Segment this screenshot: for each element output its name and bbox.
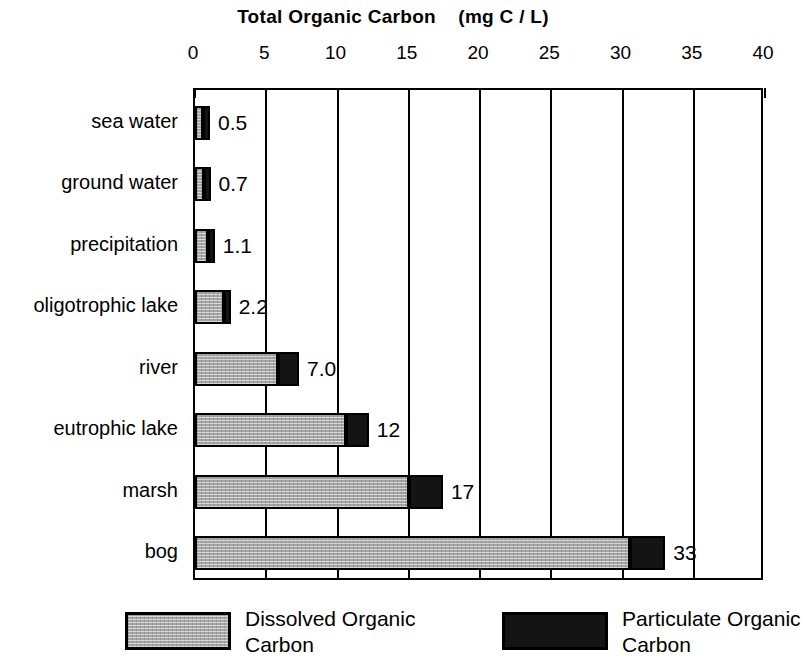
bar-value-label: 0.5 — [218, 111, 247, 135]
category-label-precipitation: precipitation — [70, 227, 178, 261]
category-label-bog: bog — [145, 534, 178, 568]
bar-segment-particulate[interactable] — [409, 475, 443, 509]
x-tick-label-30: 30 — [610, 42, 631, 64]
bar-value-label: 12 — [377, 418, 400, 442]
bar-segment-particulate[interactable] — [224, 290, 231, 324]
x-axis-tick-labels: 0510152025303540 — [193, 42, 763, 66]
legend-label-particulate: Particulate Organic Carbon — [622, 606, 805, 658]
category-label-marsh: marsh — [122, 473, 178, 507]
category-label-sea-water: sea water — [91, 104, 178, 138]
bar-segment-dissolved[interactable] — [195, 413, 346, 447]
bar-segment-particulate[interactable] — [630, 536, 666, 570]
x-tick-mark-15 — [408, 88, 410, 98]
bar-segment-dissolved[interactable] — [195, 290, 224, 324]
category-label-eutrophic-lake: eutrophic lake — [53, 411, 178, 445]
bar-row: 12 — [195, 413, 765, 447]
legend-label-dissolved: Dissolved Organic Carbon — [245, 606, 485, 658]
legend-swatch-dissolved — [125, 612, 231, 650]
bar-segment-particulate[interactable] — [203, 106, 210, 140]
x-tick-mark-0 — [194, 88, 196, 98]
chart-title: Total Organic Carbon (mg C / L) — [0, 6, 786, 28]
x-tick-label-10: 10 — [325, 42, 346, 64]
x-tick-label-35: 35 — [681, 42, 702, 64]
bar-row: 17 — [195, 475, 765, 509]
bar-value-label: 1.1 — [223, 234, 252, 258]
bar-segment-particulate[interactable] — [204, 167, 211, 201]
x-tick-mark-35 — [693, 88, 695, 98]
plot-area: 0.50.71.12.27.0121733 — [193, 88, 763, 580]
x-tick-label-5: 5 — [259, 42, 270, 64]
x-tick-mark-5 — [265, 88, 267, 98]
bar-value-label: 33 — [673, 541, 696, 565]
bar-row: 2.2 — [195, 290, 765, 324]
category-label-ground-water: ground water — [61, 165, 178, 199]
x-tick-mark-40 — [764, 88, 766, 98]
bar-segment-particulate[interactable] — [278, 352, 299, 386]
legend-swatch-particulate — [502, 612, 608, 650]
category-label-oligotrophic-lake: oligotrophic lake — [33, 288, 178, 322]
bar-value-label: 0.7 — [219, 172, 248, 196]
bar-row: 7.0 — [195, 352, 765, 386]
bar-value-label: 7.0 — [307, 357, 336, 381]
x-tick-mark-30 — [622, 88, 624, 98]
bar-value-label: 17 — [451, 480, 474, 504]
x-tick-label-15: 15 — [396, 42, 417, 64]
bar-segment-dissolved[interactable] — [195, 229, 208, 263]
bar-row: 0.5 — [195, 106, 765, 140]
x-tick-mark-25 — [550, 88, 552, 98]
bar-value-label: 2.2 — [239, 295, 268, 319]
bar-segment-dissolved[interactable] — [195, 475, 409, 509]
bar-segment-dissolved[interactable] — [195, 167, 204, 201]
x-tick-mark-20 — [479, 88, 481, 98]
x-tick-label-25: 25 — [539, 42, 560, 64]
bar-row: 0.7 — [195, 167, 765, 201]
chart-legend: Dissolved Organic CarbonParticulate Orga… — [0, 606, 786, 668]
bar-segment-particulate[interactable] — [346, 413, 369, 447]
bar-row: 1.1 — [195, 229, 765, 263]
x-tick-label-0: 0 — [188, 42, 199, 64]
bar-segment-dissolved[interactable] — [195, 106, 203, 140]
bar-segment-dissolved[interactable] — [195, 352, 278, 386]
bar-segment-dissolved[interactable] — [195, 536, 630, 570]
category-label-river: river — [139, 350, 178, 384]
x-tick-label-40: 40 — [752, 42, 773, 64]
bar-row: 33 — [195, 536, 765, 570]
y-axis-category-labels: sea waterground waterprecipitationoligot… — [0, 88, 186, 580]
x-tick-mark-10 — [337, 88, 339, 98]
x-tick-label-20: 20 — [467, 42, 488, 64]
bar-segment-particulate[interactable] — [208, 229, 215, 263]
